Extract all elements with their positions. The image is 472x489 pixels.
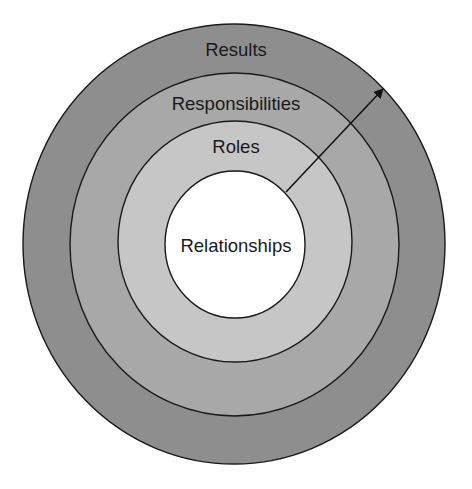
label-results: Results <box>205 39 267 60</box>
label-relationships: Relationships <box>180 235 291 256</box>
label-roles: Roles <box>212 136 259 157</box>
concentric-circles-diagram: Results Responsibilities Roles Relations… <box>0 0 472 489</box>
label-responsibilities: Responsibilities <box>172 93 301 114</box>
